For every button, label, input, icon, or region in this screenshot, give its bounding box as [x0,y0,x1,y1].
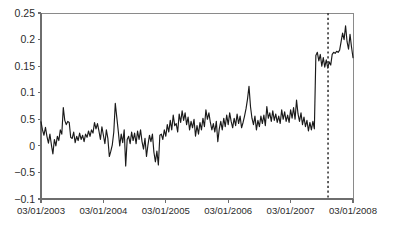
x-tick-label: 03/01/2007 [267,205,315,216]
x-tick-label: 03/01/2004 [79,205,128,216]
y-tick-label: 0.15 [15,60,36,72]
x-tick-label: 03/01/2008 [329,205,377,216]
x-axis-tick-labels: 03/01/200303/01/200403/01/200503/01/2006… [17,205,377,216]
chart-figure: 0.250.20.150.10.50−0.5−0.1 03/01/200303/… [0,0,394,232]
y-tick-label: 0.1 [20,86,35,98]
y-tick-label: 0.25 [15,7,36,19]
y-tick-label: 0 [29,140,35,152]
y-axis-tick-labels: 0.250.20.150.10.50−0.5−0.1 [14,7,35,205]
y-tick-label: −0.5 [14,166,35,178]
plot-background [41,13,353,199]
y-tick-label: 0.5 [20,113,35,125]
y-tick-label: 0.2 [20,33,35,45]
y-tick-label: −0.1 [14,193,35,205]
x-tick-label: 03/01/2006 [204,205,252,216]
line-chart: 0.250.20.150.10.50−0.5−0.1 03/01/200303/… [0,0,394,232]
x-tick-label: 03/01/2005 [142,205,190,216]
x-tick-label: 03/01/2003 [17,205,65,216]
